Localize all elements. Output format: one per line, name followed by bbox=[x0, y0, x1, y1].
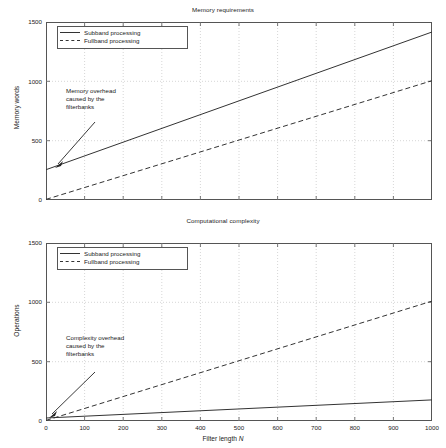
legend-key-solid-icon bbox=[60, 32, 80, 34]
x-axis-label-symbol: N bbox=[239, 435, 244, 442]
annotation-line-3: filterbanks bbox=[66, 350, 124, 358]
legend-label-subband-complexity: Subband processing bbox=[84, 250, 140, 258]
legend-complexity[interactable]: Subband processing Fullband processing bbox=[57, 247, 188, 270]
annotation-line-1: Memory overhead bbox=[66, 87, 116, 95]
x-tick-label-600: 600 bbox=[268, 424, 288, 431]
x-tick-label-300: 300 bbox=[152, 424, 172, 431]
annotation-complexity-overhead: Complexity overhead caused by the filter… bbox=[66, 334, 124, 359]
annotation-line-2: caused by the bbox=[66, 95, 116, 103]
x-axis-label: Filter length N bbox=[0, 435, 446, 442]
x-tick-label-900: 900 bbox=[383, 424, 403, 431]
legend-entry-fullband-complexity[interactable]: Fullband processing bbox=[60, 258, 184, 266]
legend-key-solid-icon bbox=[60, 253, 80, 255]
annotation-line-2: caused by the bbox=[66, 342, 124, 350]
annotation-arrow-memory bbox=[55, 122, 95, 168]
annotation-memory-overhead: Memory overhead caused by the filterbank… bbox=[66, 87, 116, 112]
legend-memory[interactable]: Subband processing Fullband processing bbox=[57, 26, 188, 49]
legend-label-subband: Subband processing bbox=[84, 29, 140, 37]
x-tick-label-1000: 1000 bbox=[422, 424, 442, 431]
legend-entry-subband[interactable]: Subband processing bbox=[60, 29, 184, 37]
x-tick-label-400: 400 bbox=[190, 424, 210, 431]
legend-key-dashed-icon bbox=[60, 40, 80, 42]
legend-label-fullband-complexity: Fullband processing bbox=[84, 258, 139, 266]
legend-entry-fullband[interactable]: Fullband processing bbox=[60, 37, 184, 45]
x-tick-label-800: 800 bbox=[345, 424, 365, 431]
legend-label-fullband: Fullband processing bbox=[84, 37, 139, 45]
annotation-line-1: Complexity overhead bbox=[66, 334, 124, 342]
x-tick-label-0: 0 bbox=[36, 424, 56, 431]
x-tick-label-500: 500 bbox=[229, 424, 249, 431]
annotation-line-3: filterbanks bbox=[66, 103, 116, 111]
subplot-memory-requirements: Memory requirements Memory words 1500 10… bbox=[0, 0, 446, 212]
x-tick-label-100: 100 bbox=[75, 424, 95, 431]
legend-key-dashed-icon bbox=[60, 261, 80, 263]
x-tick-label-700: 700 bbox=[306, 424, 326, 431]
legend-entry-subband-complexity[interactable]: Subband processing bbox=[60, 250, 184, 258]
subplot-computational-complexity: Computational complexity Operations 1500… bbox=[0, 212, 446, 448]
matlab-figure: Memory requirements Memory words 1500 10… bbox=[0, 0, 446, 448]
annotation-arrow-complexity bbox=[49, 372, 95, 418]
x-tick-label-200: 200 bbox=[113, 424, 133, 431]
x-axis-label-prefix: Filter length bbox=[202, 435, 238, 442]
